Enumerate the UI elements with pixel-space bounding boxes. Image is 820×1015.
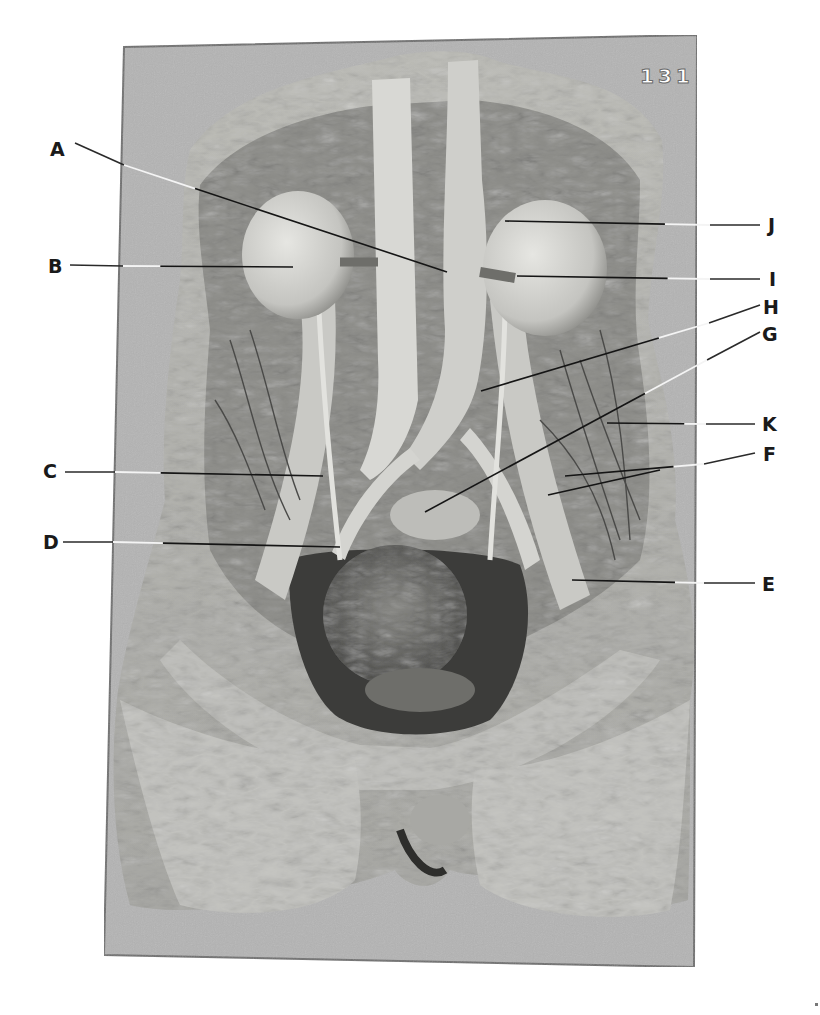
genital-region xyxy=(410,795,470,845)
print-mark xyxy=(815,1003,818,1006)
sacral-promontory xyxy=(390,490,480,540)
label-f: F xyxy=(763,445,776,464)
label-c: C xyxy=(43,462,57,481)
label-b: B xyxy=(48,257,62,276)
rectum xyxy=(365,668,475,712)
right-kidney xyxy=(483,200,607,336)
leader-line-k xyxy=(607,423,755,424)
label-d: D xyxy=(43,533,59,552)
right-renal-vessels xyxy=(480,272,515,278)
label-i: I xyxy=(769,270,776,289)
atlas-plate xyxy=(0,0,820,1015)
label-j: J xyxy=(768,216,775,235)
label-a: A xyxy=(50,140,65,159)
page-number: 131 xyxy=(640,64,694,88)
label-h: H xyxy=(763,298,779,317)
label-g: G xyxy=(762,325,778,344)
label-e: E xyxy=(762,575,775,594)
specimen xyxy=(114,51,694,917)
label-k: K xyxy=(762,415,777,434)
bladder-uterus xyxy=(323,545,467,685)
